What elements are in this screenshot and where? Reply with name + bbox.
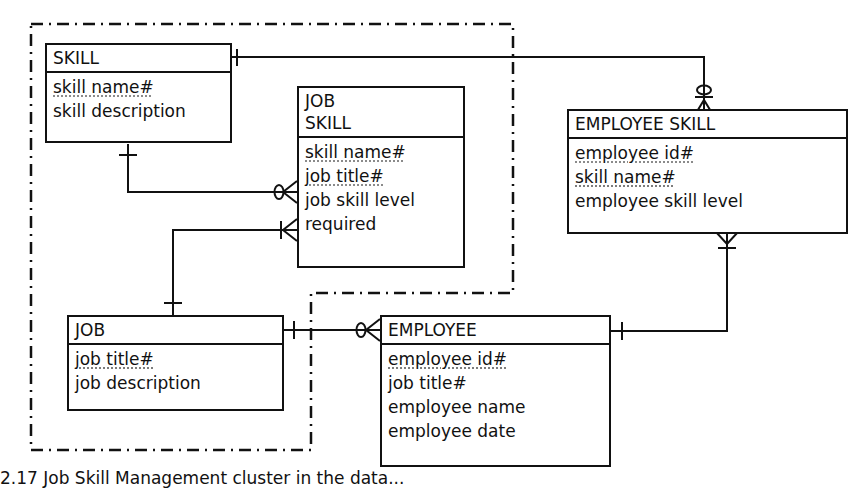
attribute-key: employee id# [575, 141, 840, 165]
attribute: job title# [388, 371, 603, 395]
attribute: employee name [388, 395, 603, 419]
attribute-key: skill name# [305, 140, 457, 164]
entity-job: JOB job title# job description [67, 315, 284, 411]
attribute-key: job title# [305, 164, 457, 188]
entity-title: EMPLOYEE [382, 317, 609, 345]
attribute: employee date [388, 419, 603, 443]
entity-employee: EMPLOYEE employee id# job title# employe… [380, 315, 611, 467]
rel-skill-jobskill [128, 144, 297, 192]
attribute-key: employee id# [388, 347, 603, 371]
attribute: job description [75, 371, 276, 395]
entity-title-line: JOB [305, 90, 457, 112]
attribute: skill description [53, 99, 224, 123]
rel-employee-employeeskill [610, 232, 727, 331]
rel-job-jobskill [173, 230, 297, 315]
entity-title-line: SKILL [305, 112, 457, 134]
attribute: employee skill level [575, 189, 840, 213]
entity-employee-skill: EMPLOYEE SKILL employee id# skill name# … [567, 109, 848, 234]
figure-caption: 2.17 Job Skill Management cluster in the… [0, 468, 404, 488]
entity-title: SKILL [47, 45, 230, 73]
entity-title: JOB [69, 317, 282, 345]
attribute-key: skill name# [575, 165, 840, 189]
entity-title: EMPLOYEE SKILL [569, 111, 846, 139]
entity-job-skill: JOB SKILL skill name# job title# job ski… [297, 86, 465, 268]
entity-title: JOB SKILL [299, 88, 463, 138]
attribute-key: skill name# [53, 75, 224, 99]
attribute-key: job title# [75, 347, 276, 371]
attribute: required [305, 212, 457, 236]
entity-skill: SKILL skill name# skill description [45, 43, 232, 143]
attribute: job skill level [305, 188, 457, 212]
